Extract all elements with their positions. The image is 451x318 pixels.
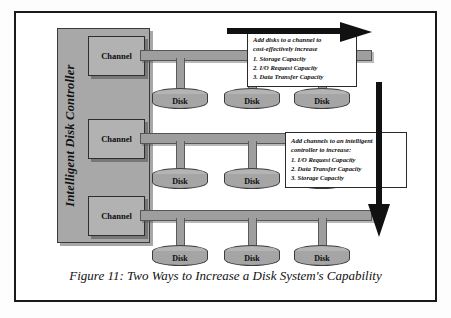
disk-label: Disk [152, 177, 208, 186]
disk-label: Disk [152, 97, 208, 106]
channel-box-2[interactable]: Channel [88, 119, 145, 159]
disk-label: Disk [224, 97, 280, 106]
disk-stem-r3-c1 [176, 218, 185, 248]
disk-label: Disk [152, 254, 208, 263]
disk-stem-r3-c3 [318, 218, 327, 248]
disk-r3-c2[interactable]: Disk [224, 245, 280, 269]
channel-box-1[interactable]: Channel [88, 36, 145, 76]
channel-label-1: Channel [101, 51, 132, 61]
channel-label-2: Channel [101, 134, 132, 144]
callout-list-item: 1. Storage Capacity [253, 54, 351, 63]
callout-list: 1. Storage Capacity 2. I/O Request Capac… [253, 54, 351, 82]
channel-box-3[interactable]: Channel [88, 196, 145, 236]
disk-r1-c3[interactable]: Disk [294, 88, 350, 112]
horizontal-growth-arrow-icon [227, 22, 372, 42]
figure-container: Intelligent Disk Controller Channel Chan… [0, 0, 451, 318]
channel-label-3: Channel [101, 211, 132, 221]
disk-label: Disk [294, 97, 350, 106]
disk-stem-r1-c1 [176, 58, 185, 90]
disk-r2-c2[interactable]: Disk [224, 168, 280, 192]
vertical-growth-arrow-icon [368, 82, 390, 237]
disk-r1-c2[interactable]: Disk [224, 88, 280, 112]
disk-r2-c1[interactable]: Disk [152, 168, 208, 192]
callout-list-item: 3. Data Transfer Capacity [253, 72, 351, 81]
disk-label: Disk [294, 254, 350, 263]
disk-stem-r2-c1 [176, 141, 185, 171]
disk-stem-r3-c2 [248, 218, 257, 248]
disk-label: Disk [224, 177, 280, 186]
figure-caption: Figure 11: Two Ways to Increase a Disk S… [22, 268, 429, 284]
disk-label: Disk [224, 254, 280, 263]
callout-lead-line-2: cost-effectively increase [253, 44, 351, 53]
disk-r1-c1[interactable]: Disk [152, 88, 208, 112]
disk-r3-c1[interactable]: Disk [152, 245, 208, 269]
disk-r3-c3[interactable]: Disk [294, 245, 350, 269]
callout-list-item: 2. I/O Request Capacity [253, 63, 351, 72]
disk-stem-r2-c2 [248, 141, 257, 171]
